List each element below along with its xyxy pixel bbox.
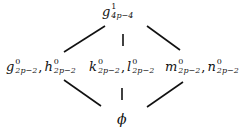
term: n02p−2 (207, 59, 238, 76)
term-base: l (127, 59, 131, 74)
term-sup: 0 (98, 58, 120, 66)
node-bottom: ϕ (117, 112, 127, 126)
term-sub: 2p−2 (132, 67, 154, 75)
term-sup: 0 (217, 58, 239, 66)
edge-right-to-bottom (147, 82, 183, 107)
term-base: n (207, 59, 215, 74)
term-base: k (89, 59, 97, 74)
term-base: g (6, 59, 14, 74)
separator: , (201, 59, 205, 74)
separator: , (121, 59, 125, 74)
term-sup: 0 (15, 58, 37, 66)
edge-left-to-bottom (64, 80, 101, 106)
node-middle-left: g02p−2 , h02p−2 (6, 59, 76, 76)
term-base: g (102, 4, 110, 19)
term: h02p−2 (44, 59, 75, 76)
separator: , (38, 59, 42, 74)
term-base: m (165, 59, 177, 74)
term-sub: 2p−2 (98, 67, 120, 75)
term: m02p−2 (165, 59, 200, 76)
term-sub: 2p−2 (15, 67, 37, 75)
term: l02p−2 (127, 59, 154, 76)
node-top: g14p−4 (102, 4, 133, 21)
term: g02p−2 (6, 59, 37, 76)
term-sub: 4p−4 (111, 12, 133, 20)
term-sup: 0 (54, 58, 76, 66)
term-base: h (44, 59, 52, 74)
node-middle-right: m02p−2 , n02p−2 (165, 59, 239, 76)
term: k02p−2 (89, 59, 120, 76)
term-sup: 0 (132, 58, 154, 66)
term-sub: 2p−2 (178, 67, 200, 75)
term-sup: 1 (111, 3, 133, 11)
node-middle-center: k02p−2 , l02p−2 (89, 59, 154, 76)
phi-label: ϕ (117, 111, 127, 127)
edge-top-to-right (147, 26, 180, 50)
term-sup: 0 (178, 58, 200, 66)
term-sub: 2p−2 (217, 67, 239, 75)
term: g14p−4 (102, 4, 133, 21)
edge-top-to-left (64, 26, 105, 52)
term-sub: 2p−2 (54, 67, 76, 75)
